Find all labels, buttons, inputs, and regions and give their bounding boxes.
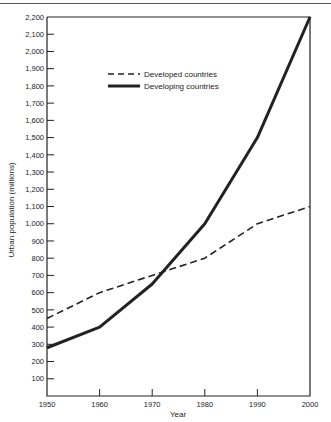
x-tick-label: 1960	[91, 400, 108, 409]
y-tick-label: 2,100	[25, 30, 44, 39]
y-tick-label: 700	[31, 271, 44, 280]
y-tick-label: 2,200	[25, 13, 44, 22]
developing-countries-line	[47, 17, 310, 348]
developed-countries-line	[47, 207, 310, 319]
y-tick-label: 1,200	[25, 185, 44, 194]
y-tick-label: 900	[31, 237, 44, 246]
y-tick-label: 800	[31, 254, 44, 263]
x-tick-label: 1950	[39, 400, 56, 409]
y-tick-label: 1,100	[25, 202, 44, 211]
y-axis-title: Urban population (millions)	[7, 162, 16, 257]
y-tick-label: 600	[31, 288, 44, 297]
legend: Developed countries Developing countries	[108, 70, 219, 91]
y-tick-label: 1,500	[25, 133, 44, 142]
x-tick-label: 1990	[249, 400, 266, 409]
y-tick-label: 1,700	[25, 99, 44, 108]
x-tick-label: 1970	[144, 400, 161, 409]
y-tick-label: 400	[31, 323, 44, 332]
y-tick-label: 1,900	[25, 64, 44, 73]
y-tick-label: 1,400	[25, 151, 44, 160]
legend-label-developing: Developing countries	[144, 82, 219, 91]
y-axis-ticks: 1002003004005006007008009001,0001,1001,2…	[25, 13, 54, 384]
x-tick-label: 1980	[196, 400, 213, 409]
y-tick-label: 1,300	[25, 168, 44, 177]
line-chart: 1002003004005006007008009001,0001,1001,2…	[0, 0, 331, 422]
y-tick-label: 100	[31, 374, 44, 383]
x-axis-ticks: 195019601970198019902000	[39, 389, 319, 409]
y-tick-label: 300	[31, 340, 44, 349]
x-axis-title: Year	[170, 410, 187, 419]
y-tick-label: 2,000	[25, 47, 44, 56]
x-tick-label: 2000	[302, 400, 319, 409]
data-lines	[47, 17, 310, 348]
y-tick-label: 1,600	[25, 116, 44, 125]
y-tick-label: 1,800	[25, 82, 44, 91]
y-tick-label: 1,000	[25, 219, 44, 228]
y-tick-label: 200	[31, 357, 44, 366]
legend-label-developed: Developed countries	[144, 70, 217, 79]
y-tick-label: 500	[31, 306, 44, 315]
